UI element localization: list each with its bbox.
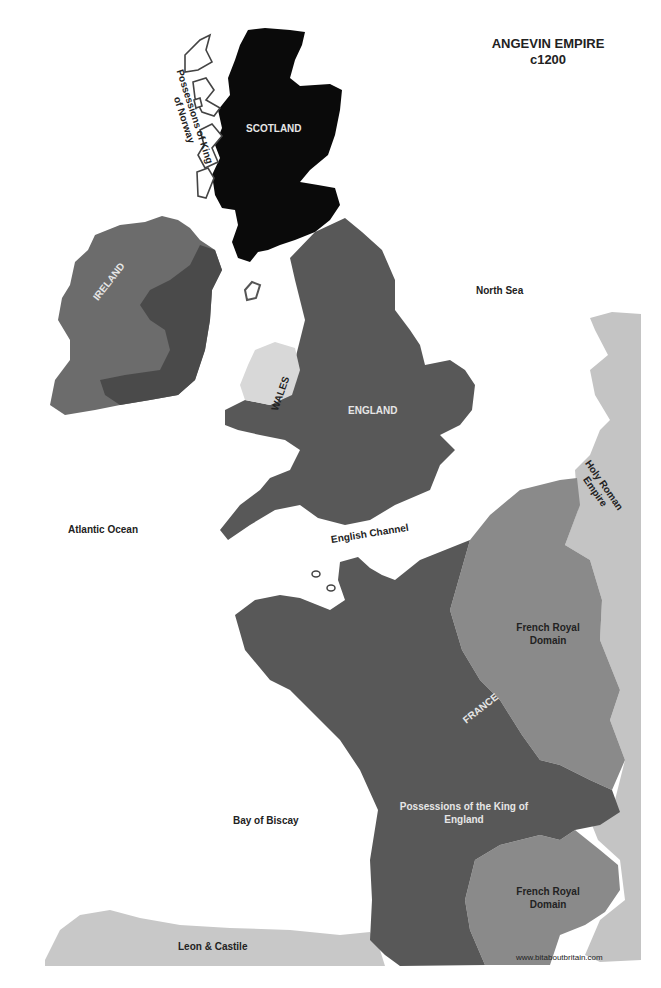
label-pke-line1: Possessions of the King of <box>384 800 544 813</box>
label-england: ENGLAND <box>348 404 397 417</box>
credit-url: www.bitaboutbritain.com <box>516 951 603 964</box>
label-frd-north-line2: Domain <box>500 634 596 647</box>
label-leon-castile: Leon & Castile <box>178 940 247 953</box>
label-pke-line2: England <box>384 813 544 826</box>
label-atlantic-ocean: Atlantic Ocean <box>68 523 138 536</box>
label-frd-north-line1: French Royal <box>500 621 596 634</box>
label-bay-of-biscay: Bay of Biscay <box>233 814 299 827</box>
label-frd-south-line1: French Royal <box>500 885 596 898</box>
label-scotland: SCOTLAND <box>246 122 302 135</box>
angevin-empire-map <box>0 0 661 988</box>
label-frd-south-line2: Domain <box>500 898 596 911</box>
map-title-line1: ANGEVIN EMPIRE <box>478 36 618 52</box>
label-possessions-king-of-england: Possessions of the King of England <box>384 800 544 826</box>
label-french-royal-domain-north: French Royal Domain <box>500 621 596 647</box>
map-title: ANGEVIN EMPIRE c1200 <box>478 36 618 68</box>
label-north-sea: North Sea <box>476 284 523 297</box>
label-french-royal-domain-south: French Royal Domain <box>500 885 596 911</box>
map-title-line2: c1200 <box>478 52 618 68</box>
